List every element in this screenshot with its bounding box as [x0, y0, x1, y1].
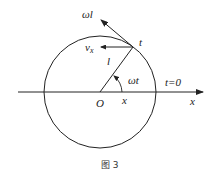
projection-x-label: x — [121, 94, 127, 106]
figure-caption: 图 3 — [101, 160, 119, 170]
angle-arc — [114, 76, 122, 92]
radius-label: l — [107, 55, 110, 67]
origin-label: O — [96, 97, 104, 109]
circular-motion-diagram: ωl vx t l ωt t=0 O x x 图 3 — [0, 0, 213, 189]
x-velocity-label: vx — [85, 41, 94, 55]
point-t-label: t — [139, 36, 143, 48]
tangent-velocity-label: ωl — [82, 8, 93, 20]
angle-label: ωt — [128, 74, 140, 86]
tangent-velocity-arrow — [101, 20, 133, 47]
axis-x-label: x — [189, 95, 195, 107]
initial-time-label: t=0 — [165, 76, 181, 88]
